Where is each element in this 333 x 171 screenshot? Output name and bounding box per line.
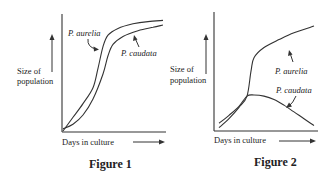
fig2-series-aurelia [219, 26, 314, 128]
fig1-title: Figure 1 [89, 157, 132, 171]
fig2-title: Figure 2 [254, 155, 297, 169]
figures-canvas: Size of population Days in culture P. au… [0, 0, 333, 171]
figure-2: Size of population Days in culture P. au… [170, 12, 318, 169]
fig2-series-caudata [219, 95, 314, 126]
fig2-xlabel: Days in culture [214, 135, 266, 145]
fig2-caudata-label: P. caudata [275, 85, 312, 95]
figure-1: Size of population Days in culture P. au… [17, 14, 166, 171]
fig2-caudata-pointer-icon [286, 96, 296, 108]
fig1-ylabel-line2: population [17, 76, 54, 86]
fig1-aurelia-pointer-icon [88, 39, 99, 52]
fig2-ylabel-line2: population [170, 75, 207, 85]
fig2-x-arrow-icon [279, 139, 316, 144]
fig1-xlabel: Days in culture [62, 137, 114, 147]
fig1-series-caudata [63, 25, 163, 129]
fig2-aurelia-label: P. aurelia [274, 66, 308, 76]
fig1-aurelia-label: P. aurelia [67, 28, 101, 38]
fig1-caudata-label: P. caudata [120, 48, 157, 58]
fig2-aurelia-pointer-icon [288, 50, 293, 62]
fig1-x-arrow-icon [133, 140, 165, 145]
fig1-caudata-pointer-icon [133, 35, 139, 47]
fig1-y-arrow-icon [50, 34, 55, 72]
fig1-ylabel-line1: Size of [17, 66, 41, 76]
fig2-y-arrow-icon [204, 34, 209, 74]
fig2-ylabel-line1: Size of [170, 64, 194, 74]
